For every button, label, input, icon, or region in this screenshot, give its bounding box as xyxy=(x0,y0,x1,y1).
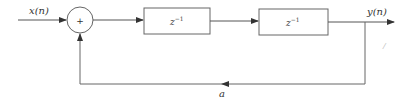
input-label: x(n) xyxy=(29,5,49,16)
feedback-gain-label: a xyxy=(219,88,225,99)
output-label: y(n) xyxy=(366,6,387,17)
adder-plus-icon: + xyxy=(76,16,84,26)
block-diagram: x(n) + z−1 z−1 y(n) a / xyxy=(0,0,406,103)
stray-mark: / xyxy=(382,41,387,50)
diagram-svg: x(n) + z−1 z−1 y(n) a / xyxy=(0,0,406,103)
